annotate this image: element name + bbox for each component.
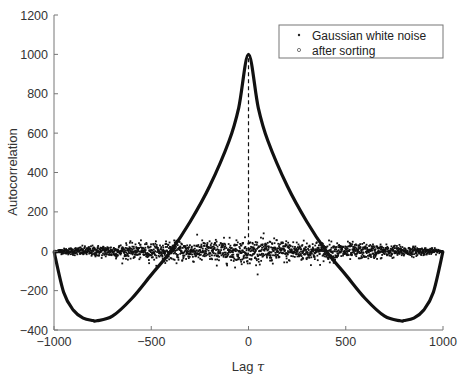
plot-area: [53, 54, 443, 321]
y-tick-label: 0: [41, 245, 48, 259]
y-axis-label: Autocorrelation: [5, 128, 20, 215]
series-gaussian-white-noise: [53, 232, 443, 275]
x-tick-label: 0: [245, 335, 252, 349]
dot-marker-icon: [298, 34, 300, 36]
y-tick-label: 1200: [20, 9, 48, 23]
legend-label-noise: Gaussian white noise: [312, 29, 426, 43]
y-tick-label: 200: [27, 205, 48, 219]
axes: −400−200020040060080010001200−1000−50005…: [20, 9, 457, 350]
x-axis-label-text: Lag: [232, 359, 257, 374]
legend: Gaussian white noise after sorting: [279, 25, 443, 58]
y-tick-label: 600: [27, 127, 48, 141]
y-tick-label: 400: [27, 166, 48, 180]
x-tick-label: −1000: [36, 335, 71, 349]
x-axis-label: Lag τ: [232, 359, 265, 374]
y-tick-label: 1000: [20, 48, 48, 62]
y-tick-label: −200: [20, 284, 48, 298]
legend-label-sorted: after sorting: [312, 44, 375, 58]
autocorrelation-chart: −400−200020040060080010001200−1000−50005…: [0, 0, 468, 377]
y-tick-label: 800: [27, 87, 48, 101]
x-tick-label: 1000: [429, 335, 457, 349]
x-tick-label: 500: [335, 335, 356, 349]
tau-symbol: τ: [257, 359, 265, 374]
x-tick-label: −500: [137, 335, 165, 349]
